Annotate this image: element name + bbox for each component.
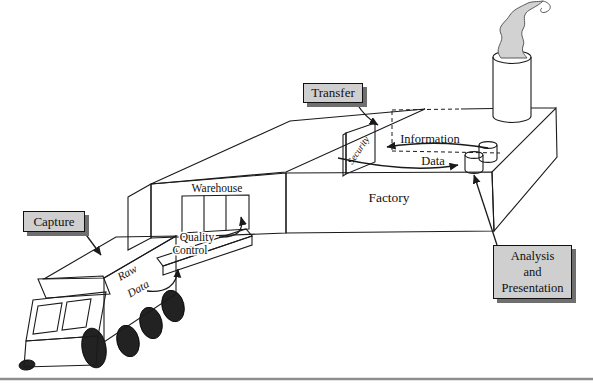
- factory-label: Factory: [368, 190, 409, 205]
- windshield-pane: [62, 299, 91, 330]
- quality-control-label-line2: Control: [172, 244, 207, 256]
- truck-wheel: [18, 359, 35, 371]
- smokestack: [493, 1, 550, 123]
- door-dividers: [204, 195, 226, 231]
- capture-arrow: [84, 232, 101, 255]
- data-label: Data: [421, 154, 445, 168]
- capture-label-box: Capture: [23, 211, 85, 232]
- warehouse-left-end: [128, 184, 151, 250]
- truck-wheel: [79, 326, 110, 370]
- truck-cab: [24, 276, 110, 367]
- analysis-presentation-label-box: Analysis and Presentation: [493, 245, 572, 299]
- warehouse-label: Warehouse: [192, 182, 243, 194]
- capture-label: Capture: [24, 212, 84, 231]
- analysis-label-line3: Presentation: [494, 280, 571, 296]
- truck-wheel: [158, 288, 187, 324]
- truck-wheels: [18, 288, 187, 371]
- transfer-label: Transfer: [304, 84, 362, 102]
- loading-dock-doors: [182, 195, 249, 233]
- transfer-label-box: Transfer: [303, 83, 363, 103]
- diagram-canvas: Warehouse Quality Control Raw Data Secur…: [0, 0, 593, 387]
- windshield-pane: [33, 303, 62, 334]
- analysis-label-line1: Analysis: [494, 248, 571, 264]
- smoke-curl: [541, 1, 551, 13]
- analysis-label-line2: and: [494, 264, 571, 280]
- quality-control-label-line1: Quality: [180, 231, 215, 244]
- raw-data-label-line2: Data: [124, 277, 151, 300]
- data-warehouse-diagram: Warehouse Quality Control Raw Data Secur…: [0, 0, 593, 387]
- smoke: [498, 1, 543, 58]
- truck-wheel: [113, 323, 142, 359]
- information-label: Information: [400, 132, 460, 146]
- trailer-top: [44, 236, 176, 279]
- raw-data-label-line1: Raw: [114, 262, 139, 283]
- factory-building: [286, 108, 557, 233]
